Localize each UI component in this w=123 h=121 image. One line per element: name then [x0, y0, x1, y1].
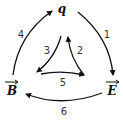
edge-label-5: 5	[60, 77, 66, 88]
edge-1-arrow	[78, 12, 113, 75]
edge-label-4: 4	[18, 29, 24, 40]
node-q: q	[58, 2, 66, 16]
edge-2-arrow	[68, 37, 84, 75]
edge-4-arrow	[13, 11, 52, 75]
node-E: E	[106, 84, 117, 98]
edge-label-1: 1	[104, 29, 110, 40]
edge-label-3: 3	[44, 45, 50, 56]
diagram-canvas: q B E 1 2 3 4 5 6	[0, 0, 123, 121]
edge-5-arrow	[41, 72, 84, 75]
edge-6-arrow	[26, 93, 102, 101]
node-B: B	[6, 84, 17, 98]
edge-label-2: 2	[77, 45, 83, 56]
edge-label-6: 6	[61, 106, 67, 117]
